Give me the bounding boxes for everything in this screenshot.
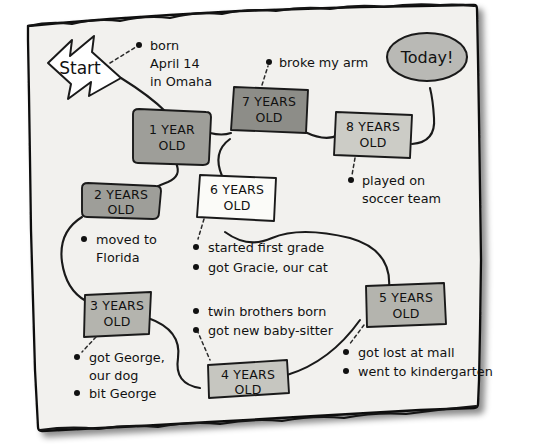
node-6-years-old-line2: OLD xyxy=(223,198,250,213)
node-4-years-old-line2: OLD xyxy=(234,382,261,397)
note-year8-line2: soccer team xyxy=(362,191,441,206)
node-4-years-old[interactable]: 4 YEARS OLD xyxy=(208,360,289,398)
note-year7-line1: broke my arm xyxy=(279,55,368,70)
note-year3-line3: bit George xyxy=(89,386,157,401)
note-birth-dot xyxy=(136,42,142,48)
node-2-years-old-line2: OLD xyxy=(107,202,134,217)
note-birth-line2: April 14 xyxy=(150,56,200,71)
node-2-years-old[interactable]: 2 YEARS OLD xyxy=(82,183,161,219)
node-6-years-old-line1: 6 YEARS xyxy=(210,182,264,197)
note-year4-line2: got new baby-sitter xyxy=(208,323,334,338)
timeline-canvas: Start Today! 1 YEAR OLD 2 YEARS OLD 3 YE… xyxy=(0,0,542,444)
note-birth-line1: born xyxy=(150,38,179,53)
node-1-year-old-line1: 1 YEAR xyxy=(149,122,195,137)
node-1-year-old[interactable]: 1 YEAR OLD xyxy=(133,109,211,165)
note-year7-dot xyxy=(266,59,272,65)
note-year5-line1: got lost at mall xyxy=(358,345,455,360)
note-year3-dot2 xyxy=(74,390,80,396)
node-6-years-old[interactable]: 6 YEARS OLD xyxy=(197,175,276,221)
node-7-years-old-line1: 7 YEARS xyxy=(242,94,296,109)
note-year6-line2: got Gracie, our cat xyxy=(208,260,328,275)
note-year4-line1: twin brothers born xyxy=(208,304,326,319)
note-year2-line1: moved to xyxy=(96,232,157,247)
note-year6-dot2 xyxy=(193,264,199,270)
node-3-years-old-line2: OLD xyxy=(103,314,130,329)
node-5-years-old-line1: 5 YEARS xyxy=(379,290,433,305)
note-year3-dot1 xyxy=(74,354,80,360)
note-year2-dot xyxy=(81,236,87,242)
note-year6-line1: started first grade xyxy=(208,240,324,255)
note-year4-dot1 xyxy=(193,308,199,314)
note-year3-line1: got George, xyxy=(89,350,165,365)
node-7-years-old[interactable]: 7 YEARS OLD xyxy=(231,87,308,133)
today-label: Today! xyxy=(400,48,454,67)
note-year6-dot1 xyxy=(193,244,199,250)
note-year2-line2: Florida xyxy=(96,250,140,265)
note-birth-line3: in Omaha xyxy=(150,74,212,89)
node-8-years-old[interactable]: 8 YEARS OLD xyxy=(334,112,412,158)
note-year3-line2: our dog xyxy=(89,368,138,383)
node-8-years-old-line2: OLD xyxy=(359,135,386,150)
node-3-years-old[interactable]: 3 YEARS OLD xyxy=(84,292,151,337)
node-1-year-old-shape xyxy=(133,109,211,165)
end-marker[interactable]: Today! xyxy=(387,33,467,81)
start-label: Start xyxy=(59,58,101,78)
node-5-years-old[interactable]: 5 YEARS OLD xyxy=(366,283,446,327)
note-year8-dot xyxy=(348,177,354,183)
node-7-years-old-line2: OLD xyxy=(255,110,282,125)
node-1-year-old-line2: OLD xyxy=(158,138,185,153)
note-year8-line1: played on xyxy=(362,173,425,188)
node-4-years-old-line1: 4 YEARS xyxy=(221,367,275,382)
note-year5-dot2 xyxy=(343,368,349,374)
note-year5-dot1 xyxy=(343,349,349,355)
node-8-years-old-line1: 8 YEARS xyxy=(346,119,400,134)
node-5-years-old-line2: OLD xyxy=(392,306,419,321)
node-3-years-old-line1: 3 YEARS xyxy=(90,298,144,313)
node-2-years-old-line1: 2 YEARS xyxy=(94,187,148,202)
note-year4-dot2 xyxy=(193,327,199,333)
note-year5-line2: went to kindergarten xyxy=(358,364,493,379)
